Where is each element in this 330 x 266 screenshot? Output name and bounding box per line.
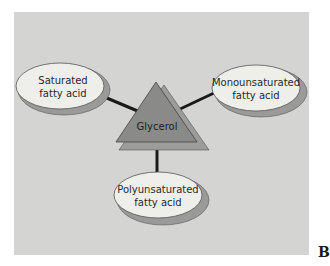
node-saturated-line2: fatty acid <box>39 88 86 99</box>
node-polyunsaturated-line2: fatty acid <box>134 197 181 208</box>
connector-monounsaturated <box>178 93 214 110</box>
glycerol-label: Glycerol <box>137 121 178 132</box>
glycerol-fatty-acid-diagram: Saturated fatty acid Monounsaturated fat… <box>0 0 330 266</box>
node-saturated: Saturated fatty acid <box>16 63 110 115</box>
glycerol-node: Glycerol <box>116 82 209 150</box>
figure-letter: B <box>318 244 330 260</box>
glycerol-triangle <box>116 82 197 142</box>
node-saturated-line1: Saturated <box>38 75 87 86</box>
node-polyunsaturated-line1: Polyunsaturated <box>117 184 198 195</box>
node-polyunsaturated: Polyunsaturated fatty acid <box>114 172 209 225</box>
node-monounsaturated: Monounsaturated fatty acid <box>212 65 307 117</box>
node-monounsaturated-line2: fatty acid <box>232 90 279 101</box>
node-monounsaturated-line1: Monounsaturated <box>212 77 300 88</box>
